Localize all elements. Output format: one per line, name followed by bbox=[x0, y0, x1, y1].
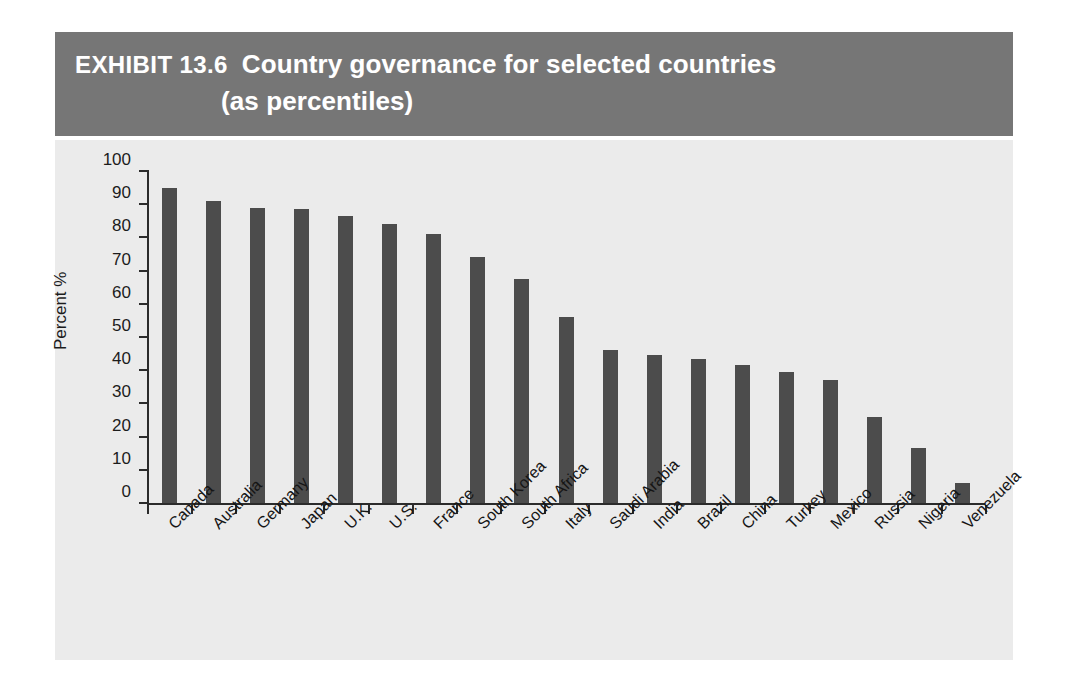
bar-fill bbox=[206, 201, 221, 503]
y-axis-title: Percent % bbox=[51, 272, 71, 350]
bar bbox=[338, 216, 353, 503]
bar bbox=[823, 380, 838, 503]
bar-fill bbox=[250, 208, 265, 503]
bar-fill bbox=[691, 359, 706, 503]
y-axis-tick-label: 40 bbox=[81, 349, 131, 369]
exhibit-header-text: EXHIBIT 13.6Country governance for selec… bbox=[75, 46, 995, 119]
y-axis-tick bbox=[139, 502, 148, 504]
bar bbox=[779, 372, 794, 503]
bar bbox=[470, 257, 485, 503]
bar-fill bbox=[735, 365, 750, 503]
y-axis-tick-label: 10 bbox=[81, 449, 131, 469]
y-axis-tick bbox=[139, 469, 148, 471]
y-axis-tick-label: 30 bbox=[81, 382, 131, 402]
y-axis-tick bbox=[139, 270, 148, 272]
y-axis-tick bbox=[139, 236, 148, 238]
bar bbox=[162, 188, 177, 503]
y-axis-tick-label: 70 bbox=[81, 250, 131, 270]
y-axis-tick-label: 60 bbox=[81, 283, 131, 303]
y-axis-tick bbox=[139, 303, 148, 305]
exhibit-subtitle: (as percentiles) bbox=[221, 83, 995, 119]
bar bbox=[426, 234, 441, 503]
bar bbox=[603, 350, 618, 503]
y-axis-tick bbox=[139, 402, 148, 404]
y-axis-tick-label: 100 bbox=[81, 150, 131, 170]
exhibit-number: EXHIBIT 13.6 bbox=[75, 51, 228, 78]
bar bbox=[382, 224, 397, 503]
x-axis-tick bbox=[147, 505, 149, 514]
exhibit-title: Country governance for selected countrie… bbox=[242, 49, 776, 79]
y-axis-tick bbox=[139, 170, 148, 172]
bar bbox=[250, 208, 265, 503]
exhibit-header-band: EXHIBIT 13.6Country governance for selec… bbox=[55, 32, 1013, 136]
bar-fill bbox=[162, 188, 177, 503]
y-axis-tick-label: 80 bbox=[81, 216, 131, 236]
bar-fill bbox=[294, 209, 309, 503]
y-axis-tick bbox=[139, 369, 148, 371]
y-axis-tick bbox=[139, 203, 148, 205]
bar-fill bbox=[823, 380, 838, 503]
bar-fill bbox=[470, 257, 485, 503]
y-axis-tick-label: 20 bbox=[81, 416, 131, 436]
bar bbox=[691, 359, 706, 503]
exhibit-figure: EXHIBIT 13.6Country governance for selec… bbox=[0, 0, 1070, 699]
bar-fill bbox=[603, 350, 618, 503]
bar-fill bbox=[779, 372, 794, 503]
y-axis-tick bbox=[139, 436, 148, 438]
bar bbox=[735, 365, 750, 503]
chart-plot-area: Percent % 0102030405060708090100 CanadaA… bbox=[55, 140, 1013, 660]
y-axis-tick bbox=[139, 336, 148, 338]
bar-fill bbox=[338, 216, 353, 503]
y-axis-tick-label: 50 bbox=[81, 316, 131, 336]
y-axis-tick-label: 0 bbox=[81, 482, 131, 502]
y-axis-tick-label: 90 bbox=[81, 183, 131, 203]
bar-fill bbox=[382, 224, 397, 503]
bar bbox=[206, 201, 221, 503]
chart-panel: Percent % 0102030405060708090100 CanadaA… bbox=[55, 140, 1013, 660]
bar bbox=[294, 209, 309, 503]
bar-fill bbox=[426, 234, 441, 503]
